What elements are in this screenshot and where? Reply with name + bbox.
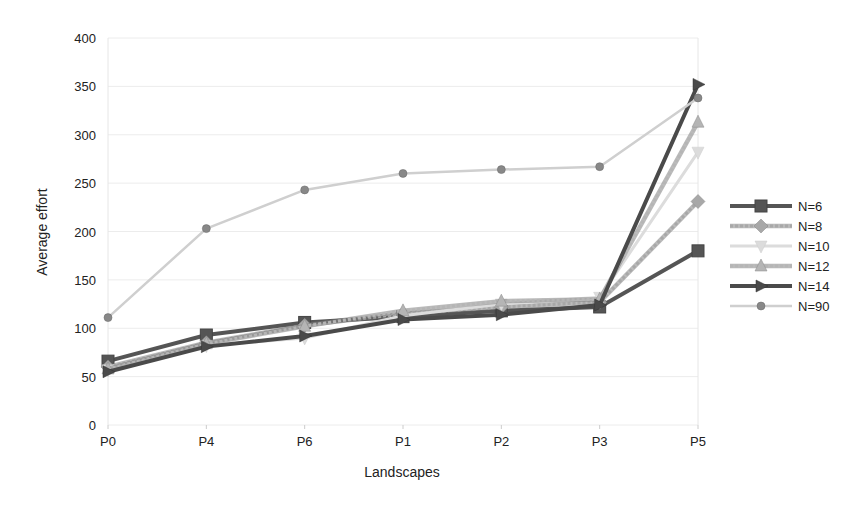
data-point (497, 166, 505, 174)
x-tick-label: P0 (100, 434, 116, 449)
data-point (301, 186, 309, 194)
legend-item: N=12 (730, 259, 829, 274)
y-tick-label: 0 (89, 418, 96, 433)
legend-label: N=90 (798, 299, 829, 314)
legend-label: N=14 (798, 279, 829, 294)
y-axis-ticks: 050100150200250300350400 (74, 31, 96, 433)
data-point (104, 314, 112, 322)
line-chart: 050100150200250300350400 P0P4P6P1P2P3P5 … (0, 0, 864, 505)
y-tick-label: 150 (74, 273, 96, 288)
x-tick-label: P3 (592, 434, 608, 449)
series-lines (101, 78, 705, 377)
legend-item: N=14 (730, 279, 829, 294)
data-point (692, 245, 704, 257)
series-n-10 (102, 147, 704, 377)
data-point (692, 115, 704, 127)
y-tick-label: 100 (74, 321, 96, 336)
legend-marker-icon (754, 219, 768, 233)
legend-label: N=12 (798, 259, 829, 274)
x-axis-title: Landscapes (364, 464, 440, 480)
legend-label: N=10 (798, 239, 829, 254)
x-tick-label: P5 (690, 434, 706, 449)
y-tick-label: 350 (74, 79, 96, 94)
y-tick-label: 200 (74, 225, 96, 240)
legend-item: N=6 (730, 199, 822, 214)
data-point (596, 163, 604, 171)
legend-marker-icon (755, 200, 767, 212)
x-tick-label: P6 (297, 434, 313, 449)
y-tick-label: 250 (74, 176, 96, 191)
legend-marker-icon (756, 280, 768, 292)
legend: N=6N=8N=10N=12N=14N=90 (730, 199, 829, 314)
x-axis-ticks: P0P4P6P1P2P3P5 (100, 434, 706, 449)
y-axis-title: Average effort (34, 188, 50, 276)
series-n-14 (103, 78, 705, 377)
x-tick-label: P2 (493, 434, 509, 449)
legend-item: N=90 (730, 299, 829, 314)
x-tick-label: P4 (198, 434, 214, 449)
data-point (202, 225, 210, 233)
grid-lines (108, 38, 698, 429)
y-tick-label: 300 (74, 128, 96, 143)
data-point (693, 78, 705, 90)
legend-label: N=8 (798, 219, 822, 234)
data-point (694, 94, 702, 102)
x-tick-label: P1 (395, 434, 411, 449)
legend-item: N=10 (730, 239, 829, 254)
legend-item: N=8 (730, 219, 822, 234)
legend-label: N=6 (798, 199, 822, 214)
y-tick-label: 50 (82, 370, 96, 385)
data-point (399, 169, 407, 177)
series-n-12 (102, 115, 704, 374)
legend-marker-icon (757, 302, 765, 310)
y-tick-label: 400 (74, 31, 96, 46)
